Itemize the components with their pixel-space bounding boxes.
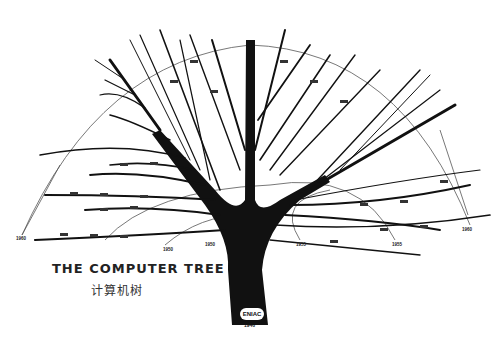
diagram-subtitle: 计算机树 xyxy=(91,281,143,298)
ring-year-label: 1950 xyxy=(205,242,215,247)
root-year: 1946 xyxy=(244,322,255,328)
computer-tree-diagram xyxy=(0,0,502,344)
right-branches xyxy=(270,70,490,255)
root-node-eniac: ENIAC xyxy=(240,308,264,320)
left-branches xyxy=(35,60,225,240)
ring-year-label: 1950 xyxy=(163,247,173,252)
ring-year-label: 1955 xyxy=(296,242,306,247)
ring-year-label: 1955 xyxy=(392,242,402,247)
diagram-title: THE COMPUTER TREE xyxy=(52,261,225,276)
ring-year-label: 1960 xyxy=(16,236,26,241)
ring-year-label: 1960 xyxy=(462,227,472,232)
